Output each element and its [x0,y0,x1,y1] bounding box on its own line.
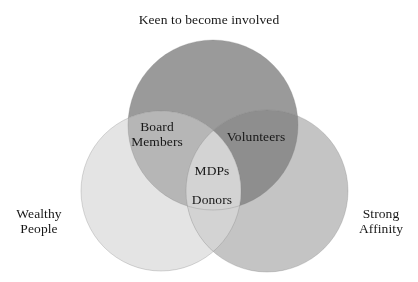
venn-diagram: Keen to become involved Wealthy People S… [0,0,418,282]
venn-circles-canvas [0,0,418,282]
region-label-donors: Donors [176,192,248,207]
region-label-board-members: Board Members [118,119,196,149]
set-label-keen-to-become-involved: Keen to become involved [0,12,418,27]
set-label-strong-affinity: Strong Affinity [344,206,418,236]
region-label-mdps: MDPs [181,163,243,178]
region-label-volunteers: Volunteers [212,129,300,144]
set-label-wealthy-people: Wealthy People [2,206,76,236]
